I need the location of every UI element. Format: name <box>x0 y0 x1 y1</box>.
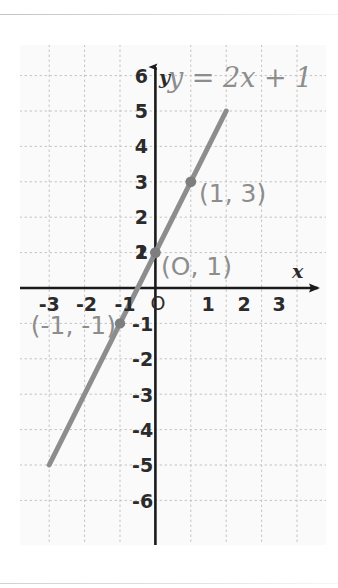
y-tick-neg4: -4 <box>132 419 153 441</box>
origin-label: O <box>151 292 166 314</box>
x-tick-pos1: 1 <box>201 293 214 315</box>
equation-annotation: y = 2x + 1 <box>167 62 312 93</box>
page-scan-line-top <box>0 14 338 15</box>
y-tick-neg1: -1 <box>132 313 153 335</box>
y-tick-neg3: -3 <box>132 384 153 406</box>
x-tick-pos3: 3 <box>272 293 285 315</box>
page-scan-line-bottom <box>0 583 338 584</box>
y-tick-4: 4 <box>135 135 148 157</box>
coordinate-graph: y = 2x + 1 y x O 6 5 4 3 2 1 2 1 -1 -2 -… <box>20 45 326 545</box>
x-tick-neg1: -1 <box>114 293 135 315</box>
y-tick-2-visible: 2 <box>135 206 148 228</box>
y-axis-tick-labels-negative: -1 -2 -3 -4 -5 -6 <box>132 313 153 512</box>
point-marker-1-3 <box>185 176 196 187</box>
y-tick-5: 5 <box>135 100 148 122</box>
graph-paper-panel: y = 2x + 1 y x O 6 5 4 3 2 1 2 1 -1 -2 -… <box>20 45 326 545</box>
y-tick-neg6: -6 <box>132 490 153 512</box>
y-tick-6: 6 <box>135 65 148 87</box>
y-axis-label: y <box>158 66 172 88</box>
y-tick-neg2: -2 <box>132 348 153 370</box>
x-axis-label: x <box>291 260 304 282</box>
x-tick-pos2: 2 <box>237 293 250 315</box>
point-label-neg1-neg1: (-1, -1) <box>31 311 116 340</box>
point-label-0-1: (O, 1) <box>161 252 232 281</box>
y-tick-1-visible: 1 <box>135 241 148 263</box>
point-marker-0-1 <box>150 247 161 258</box>
point-marker-neg1-neg1 <box>115 318 125 328</box>
y-axis-tick-labels-positive: 6 5 4 3 2 1 <box>135 65 148 263</box>
point-label-1-3: (1, 3) <box>199 179 266 208</box>
y-tick-3: 3 <box>135 171 148 193</box>
y-tick-neg5: -5 <box>132 454 153 476</box>
